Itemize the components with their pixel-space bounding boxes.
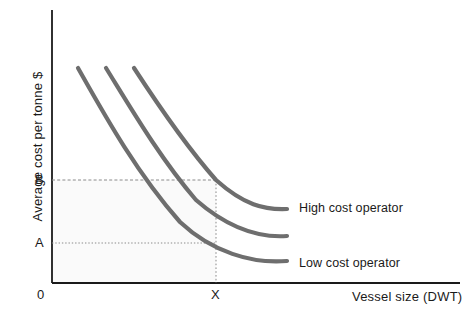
x-axis-title: Vessel size (DWT) — [352, 290, 462, 303]
x-tick-label-x: X — [211, 288, 220, 301]
chart-plot-area — [0, 0, 471, 317]
chart-container: Average cost per tonne $ Vessel size (DW… — [0, 0, 471, 317]
series-label-low-cost-operator: Low cost operator — [299, 257, 400, 270]
series-label-high-cost-operator: High cost operator — [299, 202, 403, 215]
y-axis-title: Average cost per tonne $ — [31, 47, 44, 247]
y-tick-label-b: B — [35, 173, 44, 186]
origin-label: 0 — [37, 288, 44, 301]
y-tick-label-a: A — [35, 236, 44, 249]
